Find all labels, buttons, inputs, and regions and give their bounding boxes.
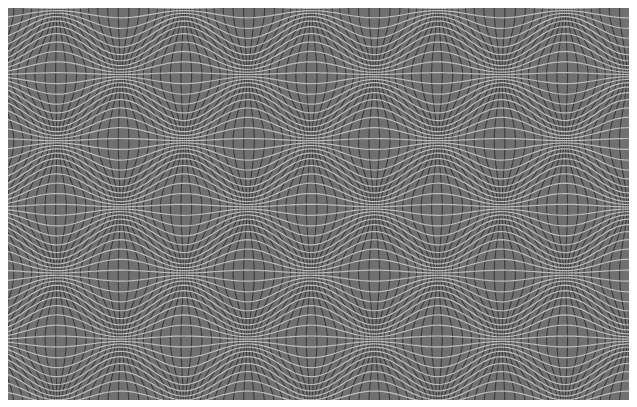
wavy-grid-graphic bbox=[8, 8, 629, 400]
illusion-pattern bbox=[8, 8, 629, 400]
